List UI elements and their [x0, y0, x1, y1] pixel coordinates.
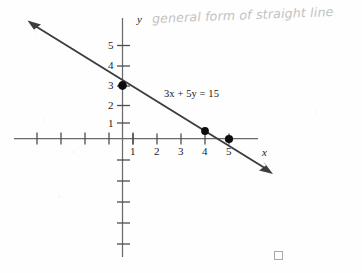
- graph-figure: 1 2 3 4 5 1 2 3 4 5 x y 3x + 5y = 15 gen…: [0, 0, 362, 273]
- x-tick-label-2: 2: [154, 146, 160, 157]
- point-x-intercept: [225, 135, 233, 143]
- x-tick-label-1: 1: [130, 146, 136, 157]
- equation-annotation: 3x + 5y = 15: [164, 88, 219, 99]
- coordinate-plot: [0, 0, 362, 273]
- x-tick-label-3: 3: [178, 146, 184, 157]
- x-axis-label: x: [262, 147, 267, 158]
- y-axis-label: y: [137, 14, 142, 25]
- y-tick-label-4: 4: [108, 60, 114, 71]
- paper-speckles: [43, 57, 317, 213]
- y-tick-label-2: 2: [108, 100, 114, 111]
- x-axis: [14, 133, 258, 145]
- y-axis-negative-ticks: [117, 160, 130, 244]
- corner-square-marker: [274, 251, 283, 260]
- point-y-intercept: [118, 81, 127, 90]
- y-tick-label-1: 1: [108, 118, 114, 129]
- y-axis: [117, 18, 130, 257]
- point-4-06: [201, 127, 209, 135]
- y-tick-label-5: 5: [108, 40, 114, 51]
- line-arrowhead-right: [259, 161, 273, 174]
- line-3x-5y-15: [28, 21, 274, 175]
- y-tick-label-3: 3: [108, 80, 114, 91]
- x-tick-label-5: 5: [226, 146, 232, 157]
- x-tick-label-4: 4: [202, 146, 208, 157]
